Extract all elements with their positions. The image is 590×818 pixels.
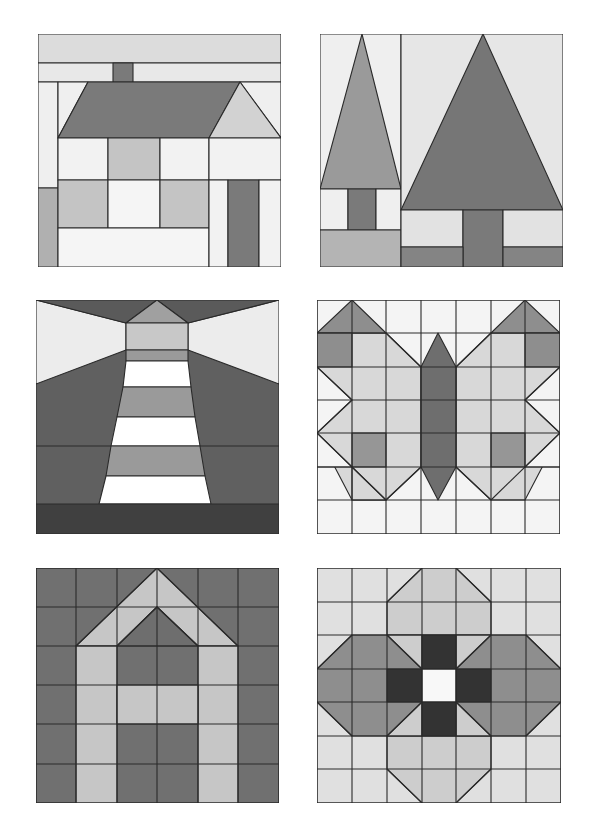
- wall-panel: [108, 180, 160, 228]
- butterfly-body: [421, 333, 456, 500]
- wall-panel: [160, 138, 209, 180]
- left-lower-wing-spot: [352, 433, 386, 467]
- center-cross-left: [387, 669, 422, 702]
- large-tree-trunk: [463, 210, 503, 267]
- wall-base: [58, 228, 209, 267]
- left-side-strip: [38, 82, 58, 188]
- quilt-block-house: [38, 34, 281, 267]
- second-sky-band: [38, 63, 281, 82]
- gallery: [126, 350, 188, 361]
- house-block-graphic: [38, 34, 281, 267]
- door: [228, 180, 259, 267]
- large-tree-ground: [503, 247, 563, 267]
- quilt-block-trees: [320, 34, 563, 267]
- large-tree-ground: [401, 247, 463, 267]
- small-tree-bg: [320, 189, 348, 230]
- quilt-block-flower: [317, 568, 561, 803]
- small-tree-bg: [376, 189, 401, 230]
- quilt-block-lighthouse: [36, 300, 279, 534]
- butterfly-block-graphic: [317, 300, 560, 534]
- flower-block-graphic: [317, 568, 561, 803]
- tower-stripe-white: [123, 361, 191, 387]
- center-cross-right: [456, 669, 491, 702]
- tower-stripe-white: [99, 476, 211, 504]
- large-tree-bg: [401, 210, 463, 247]
- tower-stripe-white: [111, 417, 200, 446]
- roof: [58, 82, 240, 138]
- quilt-block-butterfly: [317, 300, 560, 534]
- trees-block-graphic: [320, 34, 563, 267]
- wall-panel: [58, 138, 108, 180]
- tower-stripe-gray: [117, 387, 195, 417]
- lower-window-right: [160, 180, 209, 228]
- wall-panel: [209, 180, 228, 267]
- right-lower-wing-spot: [491, 433, 525, 467]
- chimney: [113, 63, 133, 82]
- lower-window-left: [58, 180, 108, 228]
- top-sky-band: [38, 34, 281, 63]
- large-tree-bg: [503, 210, 563, 247]
- left-bottom-strip: [38, 188, 58, 267]
- small-tree-trunk: [348, 189, 376, 230]
- lantern: [126, 323, 188, 350]
- left-upper-wing-spot: [317, 333, 352, 367]
- small-tree-ground: [320, 230, 401, 267]
- upper-window: [108, 138, 160, 180]
- center-square: [422, 669, 456, 702]
- right-upper-wing-spot: [525, 333, 560, 367]
- arch-block-graphic: [36, 568, 279, 803]
- ground: [36, 504, 279, 534]
- quilt-block-arch: [36, 568, 279, 803]
- wall-panel: [259, 180, 281, 267]
- lighthouse-block-graphic: [36, 300, 279, 534]
- gable-wall: [209, 138, 281, 180]
- center-cross-top: [422, 635, 456, 669]
- center-cross-bottom: [422, 702, 456, 736]
- tower-stripe-gray: [106, 446, 205, 476]
